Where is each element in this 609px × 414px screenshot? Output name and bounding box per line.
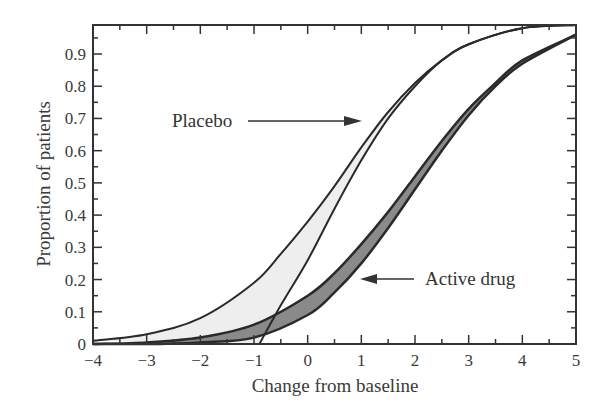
y-tick-label: 0.4: [65, 206, 87, 225]
placebo-label: Placebo: [172, 110, 232, 131]
x-tick-label: −2: [191, 351, 209, 370]
x-tick-label: 4: [518, 351, 527, 370]
y-tick-label: 0.5: [65, 174, 86, 193]
y-tick-label: 0.2: [65, 271, 86, 290]
active-drug-label: Active drug: [425, 268, 516, 289]
y-tick-label: 0.9: [65, 45, 86, 64]
placebo-arrowhead-icon: [344, 116, 362, 126]
curves: [93, 25, 576, 344]
x-tick-label: −4: [84, 351, 103, 370]
y-tick-labels: 00.10.20.30.40.50.60.70.80.9: [65, 45, 87, 354]
x-tick-label: −3: [138, 351, 156, 370]
y-tick-label: 0.8: [65, 77, 86, 96]
x-tick-label: 2: [411, 351, 420, 370]
x-tick-label: 5: [572, 351, 581, 370]
x-axis-title: Change from baseline: [252, 375, 419, 396]
x-tick-labels: −4−3−2−1012345: [84, 351, 580, 370]
x-tick-label: 3: [464, 351, 473, 370]
placebo-annotation: Placebo: [172, 110, 362, 131]
y-tick-label: 0.1: [65, 303, 86, 322]
x-tick-label: 1: [357, 351, 366, 370]
y-axis-title: Proportion of patients: [33, 101, 54, 267]
chart: 00.10.20.30.40.50.60.70.80.9 −4−3−2−1012…: [0, 0, 609, 414]
y-tick-label: 0.3: [65, 238, 86, 257]
active-drug-annotation: Active drug: [360, 268, 516, 289]
x-tick-label: 0: [303, 351, 312, 370]
y-tick-label: 0.7: [65, 109, 87, 128]
x-tick-label: −1: [245, 351, 263, 370]
active-drug-arrowhead-icon: [360, 274, 377, 284]
y-tick-label: 0.6: [65, 142, 86, 161]
